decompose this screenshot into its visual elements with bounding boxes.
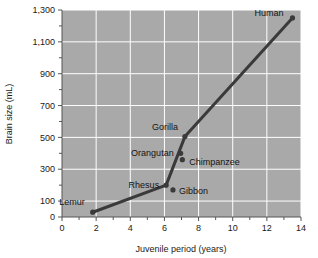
y-tick-label: 500	[40, 133, 55, 143]
y-tick-label: 700	[40, 101, 55, 111]
chart-canvas: 01003005007009001,1001,30002468101214 Le…	[0, 0, 318, 258]
y-tick-label: 100	[40, 196, 55, 206]
data-point-lemur	[90, 210, 95, 215]
data-point-gibbon	[170, 187, 175, 192]
data-point-label-human: Human	[254, 8, 283, 18]
data-point-label-rhesus: Rhesus	[129, 180, 160, 190]
data-point-label-gorilla: Gorilla	[152, 122, 178, 132]
data-point-label-orangutan: Orangutan	[131, 148, 174, 158]
y-tick-label: 1,100	[32, 37, 55, 47]
x-tick-label: 12	[262, 223, 272, 233]
x-tick-label: 0	[59, 223, 64, 233]
x-tick-label: 8	[196, 223, 201, 233]
y-tick-label: 1,300	[32, 5, 55, 15]
x-axis-title: Juvenile period (years)	[135, 244, 226, 254]
data-point-orangutan	[178, 151, 183, 156]
brain-size-juvenile-period-chart: 01003005007009001,1001,30002468101214 Le…	[0, 0, 318, 258]
data-point-gorilla	[182, 134, 187, 139]
data-point-human	[290, 15, 295, 20]
x-tick-label: 14	[296, 223, 306, 233]
data-point-rhesus	[164, 183, 169, 188]
y-tick-label: 900	[40, 69, 55, 79]
y-tick-label: 0	[50, 212, 55, 222]
x-tick-label: 4	[128, 223, 133, 233]
x-tick-label: 10	[228, 223, 238, 233]
y-axis-title: Brain size (mL)	[4, 84, 14, 145]
data-point-label-lemur: Lemur	[59, 197, 85, 207]
y-tick-label: 300	[40, 164, 55, 174]
x-tick-label: 2	[94, 223, 99, 233]
data-point-label-chimpanzee: Chimpanzee	[189, 157, 240, 167]
data-point-chimpanzee	[180, 157, 185, 162]
x-tick-label: 6	[162, 223, 167, 233]
data-point-label-gibbon: Gibbon	[179, 186, 208, 196]
